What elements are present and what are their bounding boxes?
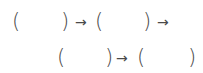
blank-open-paren: (: [137, 47, 145, 68]
arrow-right-icon: →: [75, 15, 87, 29]
arrow-right-icon: →: [116, 51, 128, 65]
blank-open-paren: (: [57, 47, 65, 68]
blank-close-paren: ): [188, 47, 196, 68]
blank-close-paren: ): [105, 47, 113, 68]
blank-open-paren: (: [12, 11, 20, 32]
blank-close-paren: ): [143, 11, 151, 32]
blank-open-paren: (: [95, 11, 103, 32]
arrow-right-icon: →: [157, 15, 169, 29]
blank-close-paren: ): [61, 11, 69, 32]
